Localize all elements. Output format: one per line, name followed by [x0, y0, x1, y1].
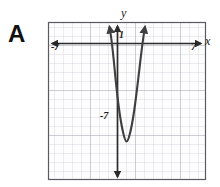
y-axis-label: y — [120, 6, 127, 20]
y-tick-label-bottom: -7 — [100, 110, 109, 121]
coordinate-plane: -7 7 1 -7 y x — [0, 0, 220, 187]
x-tick-label-left: -7 — [51, 41, 60, 52]
grid — [49, 23, 206, 180]
graph-figure: A — [0, 0, 220, 187]
x-axis-label: x — [204, 34, 211, 48]
y-tick-label-top: 1 — [119, 29, 124, 40]
problem-label: A — [8, 22, 25, 46]
